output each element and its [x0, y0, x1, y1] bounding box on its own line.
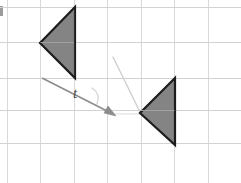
ghost-marks-group — [92, 57, 141, 114]
vector-label-t: t — [73, 85, 78, 101]
translation-vector-shaft — [42, 78, 113, 114]
translation-diagram-svg: t — [0, 0, 241, 183]
figure-canvas: t — [0, 0, 241, 183]
image-triangle — [140, 78, 175, 145]
grid-group — [0, 0, 241, 183]
ghost-arc-near-label — [92, 88, 98, 104]
ghost-guide-line — [113, 57, 140, 112]
